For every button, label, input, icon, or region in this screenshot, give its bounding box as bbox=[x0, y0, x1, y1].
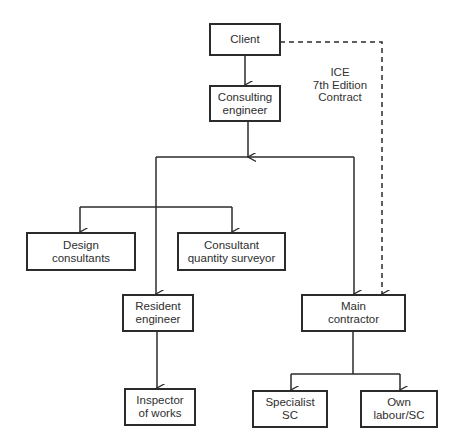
node-inspector-of-works-label-1: Inspector bbox=[136, 394, 183, 407]
node-specialist-sc-label-2: SC bbox=[265, 409, 314, 422]
node-specialist-sc-label-1: Specialist bbox=[265, 396, 314, 409]
node-resident-engineer-label-2: engineer bbox=[135, 313, 180, 326]
node-inspector-of-works-label-2: of works bbox=[136, 407, 183, 420]
node-client: Client bbox=[209, 23, 281, 56]
node-design-consultants-label-1: Design bbox=[52, 239, 110, 252]
node-consultant-qs-label-1: Consultant bbox=[188, 239, 276, 252]
node-own-labour-sc-label-2: labour/SC bbox=[373, 409, 424, 422]
node-own-labour-sc: Own labour/SC bbox=[360, 390, 438, 428]
node-main-contractor-label-1: Main bbox=[328, 300, 379, 313]
node-main-contractor: Main contractor bbox=[301, 294, 406, 332]
node-resident-engineer-label-1: Resident bbox=[135, 300, 180, 313]
node-specialist-sc: Specialist SC bbox=[252, 390, 328, 428]
node-design-consultants-label-2: consultants bbox=[52, 252, 110, 265]
contract-label-line-2: 7th Edition bbox=[305, 79, 375, 92]
contract-label: ICE 7th Edition Contract bbox=[305, 66, 375, 104]
node-consulting-engineer: Consulting engineer bbox=[209, 85, 281, 122]
node-design-consultants: Design consultants bbox=[26, 232, 136, 271]
node-main-contractor-label-2: contractor bbox=[328, 313, 379, 326]
node-consultant-qs-label-2: quantity surveyor bbox=[188, 252, 276, 265]
connector-lines bbox=[0, 0, 460, 448]
node-consulting-engineer-label-1: Consulting bbox=[218, 91, 272, 104]
node-consulting-engineer-label-2: engineer bbox=[218, 104, 272, 117]
org-chart-canvas: Client Consulting engineer ICE 7th Editi… bbox=[0, 0, 460, 448]
node-own-labour-sc-label-1: Own bbox=[373, 396, 424, 409]
node-resident-engineer: Resident engineer bbox=[122, 294, 194, 332]
contract-label-line-1: ICE bbox=[305, 66, 375, 79]
contract-label-line-3: Contract bbox=[305, 91, 375, 104]
node-consultant-quantity-surveyor: Consultant quantity surveyor bbox=[177, 232, 286, 271]
node-client-label: Client bbox=[230, 33, 259, 46]
node-inspector-of-works: Inspector of works bbox=[124, 388, 196, 426]
